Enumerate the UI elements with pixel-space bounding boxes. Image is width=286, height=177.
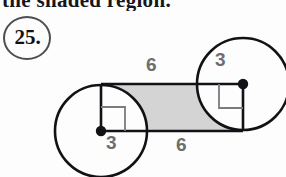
geometry-figure: 6 6 3 3 <box>0 0 286 177</box>
right-center-dot <box>238 79 248 89</box>
label-right-radius: 3 <box>215 50 226 69</box>
label-bottom-length: 6 <box>176 135 187 154</box>
label-left-radius: 3 <box>106 133 117 152</box>
label-top-length: 6 <box>146 55 157 74</box>
worksheet-page: the shaded region. 25. <box>0 0 286 177</box>
left-center-dot <box>96 126 106 136</box>
figure-svg <box>0 0 286 177</box>
